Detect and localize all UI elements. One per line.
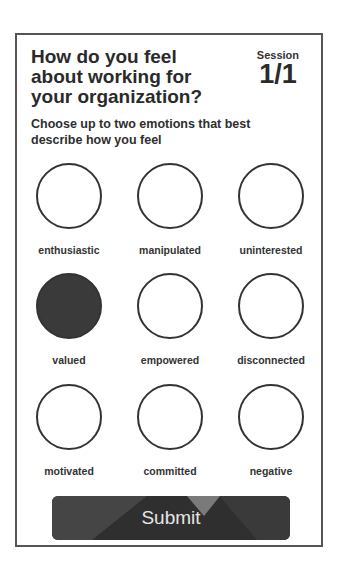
session-indicator: Session 1/1 [257,49,299,87]
option-circle[interactable] [238,273,304,339]
option-label: valued [19,354,119,366]
option-motivated[interactable]: motivated [19,384,119,477]
option-label: negative [221,465,321,477]
option-circle[interactable] [238,163,304,229]
option-label: disconnected [221,354,321,366]
option-negative[interactable]: negative [221,384,321,477]
question-title: How do you feel about working for your o… [31,47,221,107]
question-instruction: Choose up to two emotions that best desc… [31,116,261,148]
option-label: committed [120,465,220,477]
option-label: motivated [19,465,119,477]
option-label: enthusiastic [19,244,119,256]
option-empowered[interactable]: empowered [120,273,220,366]
option-circle[interactable] [137,273,203,339]
option-circle[interactable] [36,163,102,229]
submit-label: Submit [52,507,290,529]
option-circle[interactable] [137,384,203,450]
session-value: 1/1 [257,61,299,87]
option-manipulated[interactable]: manipulated [120,163,220,256]
option-circle[interactable] [36,273,102,339]
option-circle[interactable] [238,384,304,450]
option-circle[interactable] [137,163,203,229]
option-label: manipulated [120,244,220,256]
option-disconnected[interactable]: disconnected [221,273,321,366]
option-circle[interactable] [36,384,102,450]
option-uninterested[interactable]: uninterested [221,163,321,256]
option-label: empowered [120,354,220,366]
survey-card: How do you feel about working for your o… [15,33,323,547]
option-committed[interactable]: committed [120,384,220,477]
option-enthusiastic[interactable]: enthusiastic [19,163,119,256]
submit-button[interactable]: Submit [52,496,290,540]
option-valued[interactable]: valued [19,273,119,366]
option-label: uninterested [221,244,321,256]
